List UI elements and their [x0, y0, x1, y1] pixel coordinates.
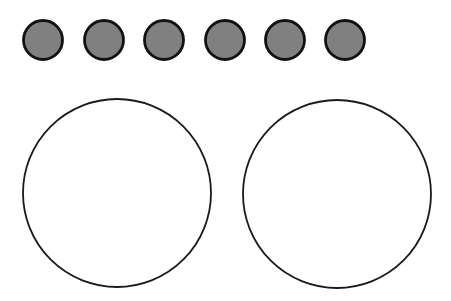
diagram-canvas: [0, 0, 451, 301]
small-circle-4: [206, 21, 245, 60]
small-circle-6: [326, 21, 365, 60]
large-circle-row: [23, 99, 431, 288]
large-circle-right: [243, 100, 431, 288]
small-circle-5: [266, 21, 305, 60]
small-circle-2: [85, 21, 124, 60]
small-circle-row: [24, 21, 365, 60]
small-circle-3: [145, 21, 184, 60]
small-circle-1: [24, 21, 63, 60]
large-circle-left: [23, 99, 211, 287]
